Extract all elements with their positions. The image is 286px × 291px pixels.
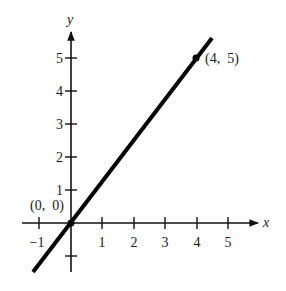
line-chart: −1 1 2 3 4 5 1 2 3 4 5 x y (0, 0) (4, 5) xyxy=(0,0,286,291)
svg-text:5: 5 xyxy=(56,51,63,66)
svg-text:2: 2 xyxy=(56,150,63,165)
svg-text:4: 4 xyxy=(56,84,63,99)
point-4-5 xyxy=(193,55,200,62)
svg-text:2: 2 xyxy=(131,235,138,250)
svg-text:−1: −1 xyxy=(30,235,45,250)
x-axis-label: x xyxy=(262,215,270,230)
y-axis-label: y xyxy=(65,12,74,27)
point-origin xyxy=(68,220,75,227)
point-label-4-5: (4, 5) xyxy=(205,51,239,67)
svg-text:5: 5 xyxy=(225,235,232,250)
svg-text:3: 3 xyxy=(56,117,63,132)
svg-text:4: 4 xyxy=(194,235,201,250)
point-label-origin: (0, 0) xyxy=(30,198,64,214)
svg-text:3: 3 xyxy=(162,235,169,250)
svg-text:1: 1 xyxy=(99,235,106,250)
y-tick-labels: 1 2 3 4 5 xyxy=(56,51,63,198)
svg-text:1: 1 xyxy=(56,183,63,198)
